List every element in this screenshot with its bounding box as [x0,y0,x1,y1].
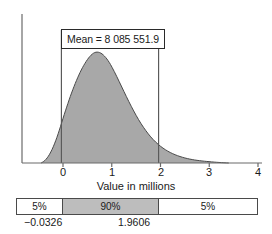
interval-segment-middle: 90% [63,199,159,214]
upper-bound-label: 1.9606 [118,216,150,228]
x-tick-4: 4 [248,166,268,178]
x-tick-3: 3 [199,166,219,178]
x-tick-1: 1 [102,166,122,178]
interval-segment-left: 5% [17,199,63,214]
x-tick-0: 0 [53,166,73,178]
lower-bound-label: −0.0326 [24,216,62,228]
plot-svg [0,0,272,185]
mean-callout: Mean = 8 085 551.9 [61,29,165,49]
interval-percent-bar: 5% 90% 5% [16,198,258,215]
chart-figure: Mean = 8 085 551.9 0 1 2 3 4 Value in mi… [0,0,272,234]
x-axis-title: Value in millions [0,180,272,192]
density-area [41,52,229,163]
mean-callout-label: Mean = 8 085 551.9 [67,33,159,45]
interval-segment-right: 5% [159,199,257,214]
density-plot: Mean = 8 085 551.9 0 1 2 3 4 Value in mi… [0,0,272,185]
x-tick-2: 2 [151,166,171,178]
